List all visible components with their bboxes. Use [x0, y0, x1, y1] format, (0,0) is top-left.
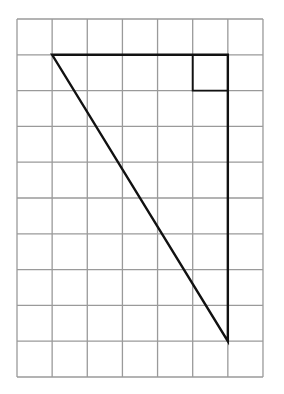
grid-triangle-diagram [0, 0, 284, 394]
right-angle-marker [193, 55, 228, 91]
